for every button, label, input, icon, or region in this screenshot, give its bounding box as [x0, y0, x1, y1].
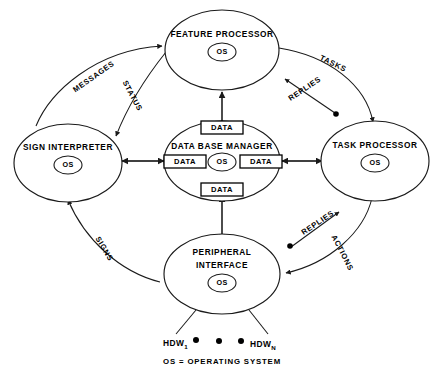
hdw-last-sub: N: [271, 343, 276, 350]
node-data-base-manager-label: DATA BASE MANAGER: [171, 141, 272, 151]
edge-replies-upper-label: REPLIES: [287, 74, 323, 102]
hdw-first-sub: 1: [184, 342, 188, 349]
hdw-last-label: HDWN: [250, 339, 276, 350]
node-task-processor-os-label: OS: [369, 158, 380, 167]
node-task-processor-label: TASK PROCESSOR: [333, 140, 418, 150]
edge-tasks-label: TASKS: [318, 53, 348, 74]
hdw-dot-3: [238, 338, 244, 344]
hdw-dot-2: [216, 338, 222, 344]
edge-status: STATUS: [116, 52, 166, 136]
edge-replies-upper: REPLIES: [285, 74, 339, 116]
edge-messages: MESSAGES: [36, 46, 162, 126]
node-peripheral-interface-label-line1: PERIPHERAL: [193, 247, 252, 257]
edge-replies-lower-label: REPLIES: [300, 208, 336, 236]
legend-text: OS = OPERATING SYSTEM: [163, 357, 281, 366]
edge-signs-line: [68, 200, 160, 282]
hdw-last-base: HDW: [250, 339, 271, 349]
data-box-bottom[interactable]: DATA: [201, 183, 243, 196]
node-peripheral-interface-label-line2: INTERFACE: [196, 260, 248, 270]
data-box-top-label: DATA: [211, 123, 233, 132]
hdw-leg-last: [249, 310, 268, 334]
data-box-left-label: DATA: [174, 157, 196, 166]
node-feature-processor-label: FEATURE PROCESSOR: [170, 29, 273, 39]
node-data-base-manager-os-label: OS: [216, 157, 227, 166]
data-box-right-label: DATA: [250, 157, 272, 166]
edge-messages-label: MESSAGES: [71, 59, 116, 94]
hdw-first-base: HDW: [163, 338, 184, 348]
node-sign-interpreter[interactable]: SIGN INTERPRETER OS: [14, 124, 122, 202]
data-box-left[interactable]: DATA: [164, 155, 206, 168]
data-box-bottom-label: DATA: [211, 185, 233, 194]
diagram-canvas: MESSAGES STATUS TASKS REPLIES ACTIONS RE…: [0, 0, 440, 371]
edge-signs: SIGNS: [68, 200, 160, 282]
hdw-leg-first: [176, 310, 196, 334]
node-sign-interpreter-os-label: OS: [62, 160, 73, 169]
node-task-processor[interactable]: TASK PROCESSOR OS: [321, 121, 429, 201]
hardware-labels: HDW1 HDWN: [163, 337, 276, 350]
architecture-diagram: MESSAGES STATUS TASKS REPLIES ACTIONS RE…: [0, 0, 440, 371]
edge-replies-lower-dot: [287, 243, 293, 249]
edge-signs-label: SIGNS: [94, 235, 116, 263]
hdw-first-label: HDW1: [163, 338, 188, 349]
node-peripheral-interface-os-label: OS: [216, 278, 227, 287]
edge-messages-line: [36, 46, 162, 126]
node-feature-processor-os-label: OS: [216, 47, 227, 56]
hdw-dot-1: [193, 337, 199, 343]
edge-status-line: [116, 52, 166, 136]
node-sign-interpreter-label: SIGN INTERPRETER: [23, 142, 113, 152]
edge-replies-lower: REPLIES: [287, 208, 339, 248]
node-peripheral-interface[interactable]: PERIPHERAL INTERFACE OS: [164, 234, 280, 314]
edge-status-label: STATUS: [121, 79, 145, 113]
data-box-right[interactable]: DATA: [240, 155, 282, 168]
data-box-top[interactable]: DATA: [201, 121, 243, 134]
node-feature-processor[interactable]: FEATURE PROCESSOR OS: [165, 10, 279, 90]
edge-actions-label: ACTIONS: [330, 233, 356, 272]
edge-replies-upper-dot: [333, 111, 339, 117]
